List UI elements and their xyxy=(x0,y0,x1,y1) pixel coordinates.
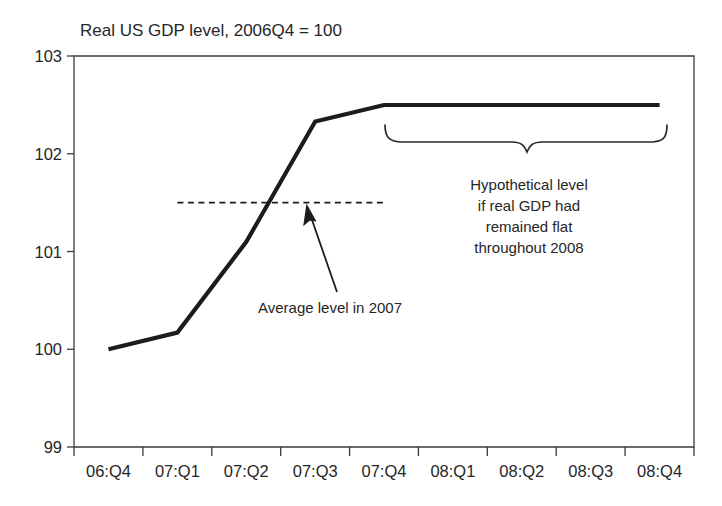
y-axis-label-101: 101 xyxy=(34,243,62,261)
axis-box xyxy=(74,56,694,447)
hypothetical-curly-brace xyxy=(385,125,667,152)
x-tick-marks xyxy=(74,447,694,456)
x-axis-label-08q4: 08:Q4 xyxy=(637,462,682,480)
average-level-annotation-label: Average level in 2007 xyxy=(258,299,402,316)
x-tick-labels: 06:Q4 07:Q1 07:Q2 07:Q3 07:Q4 08:Q1 08:Q… xyxy=(86,462,682,480)
hypothetical-brace-group xyxy=(385,125,667,152)
x-axis-label-07q3: 07:Q3 xyxy=(293,462,338,480)
chart-title: Real US GDP level, 2006Q4 = 100 xyxy=(80,21,342,40)
chart-canvas: 103 102 101 100 99 06:Q4 07:Q1 07:Q2 07:… xyxy=(0,0,722,506)
average-2007-arrow-shaft xyxy=(311,217,337,292)
y-axis-label-102: 102 xyxy=(34,145,62,163)
hypothetical-annotation-line-1: Hypothetical level xyxy=(470,176,588,193)
x-axis-label-08q1: 08:Q1 xyxy=(430,462,475,480)
y-tick-marks xyxy=(67,56,74,447)
y-axis-label-99: 99 xyxy=(44,438,62,456)
x-axis-label-08q3: 08:Q3 xyxy=(568,462,613,480)
x-axis-label-06q4: 06:Q4 xyxy=(86,462,131,480)
x-axis-label-07q4: 07:Q4 xyxy=(362,462,407,480)
gdp-level-chart-figure: 103 102 101 100 99 06:Q4 07:Q1 07:Q2 07:… xyxy=(0,0,722,506)
x-axis-label-07q1: 07:Q1 xyxy=(155,462,200,480)
average-2007-arrow-group xyxy=(303,204,337,293)
plot-frame xyxy=(74,56,694,447)
hypothetical-annotation-line-3: remained flat xyxy=(486,218,574,235)
hypothetical-level-annotation: Hypothetical level if real GDP had remai… xyxy=(470,176,588,256)
average-2007-arrow-head xyxy=(303,204,316,227)
hypothetical-annotation-line-2: if real GDP had xyxy=(478,197,580,214)
hypothetical-annotation-line-4: throughout 2008 xyxy=(474,239,583,256)
y-axis-label-100: 100 xyxy=(34,340,62,358)
x-axis-label-08q2: 08:Q2 xyxy=(499,462,544,480)
y-tick-labels: 103 102 101 100 99 xyxy=(34,47,62,456)
x-axis-label-07q2: 07:Q2 xyxy=(224,462,269,480)
y-axis-label-103: 103 xyxy=(34,47,62,65)
